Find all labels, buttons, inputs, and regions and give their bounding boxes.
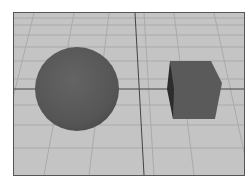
scene-canvas[interactable]	[14, 13, 244, 175]
cube-object[interactable]	[167, 61, 222, 119]
sphere-object[interactable]	[35, 47, 119, 131]
3d-viewport[interactable]	[13, 12, 245, 176]
